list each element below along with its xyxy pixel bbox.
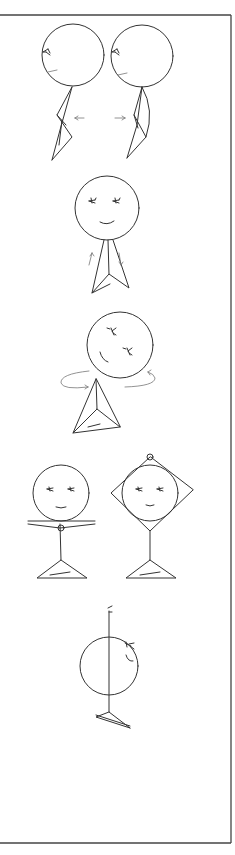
mouth — [48, 70, 57, 72]
figure-arms-horizontal — [28, 465, 95, 578]
exercise-illustration — [0, 0, 235, 855]
closed-eye-icon — [43, 49, 50, 55]
closed-eye-icon — [123, 348, 132, 355]
rotate-arrow-icon — [125, 370, 155, 387]
closed-eye-icon — [125, 642, 134, 649]
arrow-up-icon — [89, 253, 94, 265]
arrow-left-icon — [75, 116, 84, 120]
panel-neck-tilt — [42, 24, 173, 160]
closed-eye-icon — [107, 328, 116, 335]
closed-eye-icon — [112, 49, 119, 55]
panel-head-rotate — [61, 312, 155, 433]
arrow-down-icon — [119, 253, 123, 265]
figure-right — [111, 25, 173, 158]
closed-eye-icon — [68, 487, 74, 491]
smile — [56, 507, 66, 508]
smile — [126, 655, 133, 661]
closed-eye-icon — [47, 487, 53, 491]
closed-eye-icon — [113, 198, 120, 203]
mouth — [118, 73, 127, 75]
rotate-arrow-icon — [61, 371, 89, 389]
panel-side-profile — [80, 606, 138, 728]
smile — [146, 505, 154, 506]
figure-left — [42, 24, 104, 160]
smile — [100, 221, 114, 224]
smile — [100, 352, 108, 362]
panel-arms — [28, 454, 193, 578]
closed-eye-icon — [136, 487, 142, 491]
closed-eye-icon — [89, 198, 96, 203]
closed-eye-icon — [157, 487, 163, 491]
figure-arms-overhead — [111, 454, 193, 578]
frame — [0, 15, 231, 843]
panel-head-nod — [75, 176, 139, 293]
arrow-right-icon — [115, 116, 125, 120]
